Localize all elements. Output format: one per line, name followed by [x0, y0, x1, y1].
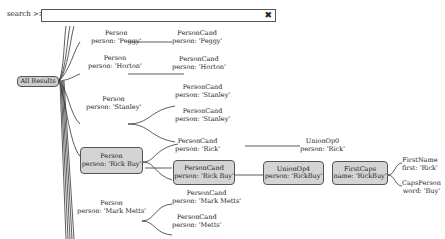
node-mark-cand-2[interactable]: PersonCandperson: 'Metts': [172, 214, 221, 229]
node-mark-person[interactable]: Personperson: 'Mark Metts': [77, 200, 146, 215]
node-rick-cand-1[interactable]: PersonCandperson: 'Rick': [175, 138, 220, 153]
all-results-node[interactable]: All Results: [17, 76, 59, 87]
node-rick-union4[interactable]: UnionOp4person: 'RickBuy': [263, 161, 324, 185]
node-rick-firstcaps[interactable]: FirstCapsname: 'RickBuy': [332, 161, 388, 185]
node-horton-cand[interactable]: PersonCandperson: 'Horton': [172, 56, 226, 71]
node-horton-person[interactable]: Personperson: 'Horton': [88, 55, 142, 70]
node-mark-cand-1[interactable]: PersonCandperson: 'Mark Metts': [172, 190, 241, 205]
node-rick-union0[interactable]: UnionOp0person: 'Rick': [300, 138, 345, 153]
node-rick-cand-2[interactable]: PersonCandperson: 'Rick Buy': [173, 160, 235, 185]
node-peggy-cand[interactable]: PersonCandperson: 'Peggy': [172, 30, 222, 45]
node-rick-capsperson[interactable]: CapsPersonword: 'Buy': [402, 180, 441, 195]
node-peggy-person[interactable]: Personperson: 'Peggy': [91, 30, 141, 45]
node-stanley-cand-1[interactable]: PersonCandperson: 'Stanley': [175, 84, 230, 99]
node-stanley-person[interactable]: Personperson: 'Stanley': [86, 96, 141, 111]
node-rick-firstname[interactable]: FirstNamefirst: 'Rick': [402, 157, 438, 172]
node-stanley-cand-2[interactable]: PersonCandperson: 'Stanley': [175, 108, 230, 123]
node-rick-person[interactable]: Personperson: 'Rick Buy': [80, 147, 143, 174]
